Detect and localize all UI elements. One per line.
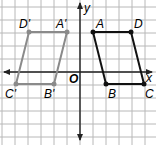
label-b: B [108,87,116,101]
label-a: A [95,17,104,31]
label-a-prime: A' [55,17,67,31]
point-c-prime [14,82,19,87]
label-c: C [145,87,154,101]
coordinate-plane-figure: x y O D' A' C' B' A D B C [0,0,156,145]
x-axis-left-arrow-icon [3,69,10,75]
point-d [129,30,134,35]
label-d: D [134,17,143,31]
origin-label: O [69,72,79,86]
point-b-prime [52,82,57,87]
y-axis-up-arrow-icon [77,2,83,9]
point-c [142,82,147,87]
point-a [91,30,96,35]
y-axis-label: y [83,1,91,15]
label-b-prime: B' [44,87,55,101]
label-c-prime: C' [5,87,17,101]
point-b [104,82,109,87]
label-d-prime: D' [19,17,31,31]
